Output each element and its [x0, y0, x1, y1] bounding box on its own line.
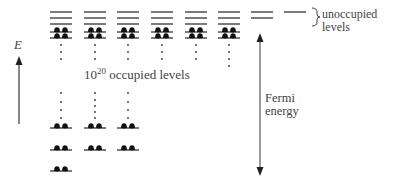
ellipsis-dot [94, 117, 96, 119]
ellipsis-dot [228, 65, 230, 67]
electron-icon [222, 33, 227, 38]
electron-icon [189, 27, 194, 32]
electron-icon [96, 123, 101, 128]
ellipsis-dot [195, 58, 197, 60]
ellipsis-dot [127, 92, 129, 94]
ellipsis-dot [127, 51, 129, 53]
ellipsis-dot [127, 109, 129, 111]
electron-icon [129, 27, 134, 32]
electron-icon [197, 27, 202, 32]
electron-icon [62, 123, 67, 128]
ellipsis-dot [60, 117, 62, 119]
ellipsis-dot [94, 105, 96, 107]
unoccupied-label-line2: levels [322, 21, 377, 34]
ellipsis-dot [161, 58, 163, 60]
energy-axis-arrow-icon [16, 56, 23, 124]
electron-icon [121, 145, 126, 150]
electron-icon [96, 27, 101, 32]
occupied-levels-base: 10 [84, 67, 97, 82]
ellipsis-dot [161, 44, 163, 46]
fermi-energy-label: Fermienergy [265, 92, 299, 118]
ellipsis-dot [94, 92, 96, 94]
electron-icon [230, 27, 235, 32]
occupied-levels-exponent: 20 [97, 66, 106, 76]
electron-icon [54, 145, 59, 150]
ellipsis-dot [127, 44, 129, 46]
electron-icon [129, 33, 134, 38]
ellipsis-dot [228, 51, 230, 53]
ellipsis-dot [228, 44, 230, 46]
electron-icon [230, 33, 235, 38]
ellipsis-dot [94, 44, 96, 46]
occupied-levels-text: occupied levels [106, 67, 190, 82]
energy-axis-label: E [14, 38, 22, 52]
electron-icon [62, 145, 67, 150]
electron-icon [62, 33, 67, 38]
electron-icon [197, 33, 202, 38]
electron-icon [121, 123, 126, 128]
ellipsis-dot [94, 111, 96, 113]
unoccupied-label-line1: unoccupied [322, 8, 377, 21]
electron-icon [88, 27, 93, 32]
electron-icon [222, 27, 227, 32]
electron-icon [129, 123, 134, 128]
electron-icon [96, 33, 101, 38]
ellipsis-dot [60, 109, 62, 111]
ellipsis-dot [161, 51, 163, 53]
ellipsis-dot [228, 58, 230, 60]
ellipsis-dot [127, 101, 129, 103]
ellipsis-dot [60, 51, 62, 53]
ellipsis-dot [195, 44, 197, 46]
occupied-levels-label: 1020 occupied levels [84, 67, 190, 82]
electron-icon [54, 123, 59, 128]
ellipsis-dot [60, 92, 62, 94]
electron-icon [88, 123, 93, 128]
unoccupied-levels-label: unoccupiedlevels [322, 8, 377, 33]
electron-icon [88, 145, 93, 150]
ellipsis-dot [94, 99, 96, 101]
electron-icon [129, 145, 134, 150]
electron-icon [121, 27, 126, 32]
ellipsis-dot [127, 58, 129, 60]
electron-icon [62, 27, 67, 32]
electron-icon [54, 33, 59, 38]
electron-icon [163, 27, 168, 32]
ellipsis-dot [94, 51, 96, 53]
electron-icon [189, 33, 194, 38]
ellipsis-dot [94, 58, 96, 60]
electron-icon [62, 166, 67, 171]
fermi-label-line2: energy [265, 105, 299, 118]
electron-icon [54, 27, 59, 32]
electron-icon [163, 33, 168, 38]
ellipsis-dot [60, 58, 62, 60]
electron-icon [155, 27, 160, 32]
ellipsis-dot [127, 117, 129, 119]
electron-icon [96, 145, 101, 150]
electron-icon [88, 33, 93, 38]
ellipsis-dot [60, 44, 62, 46]
ellipsis-dot [60, 101, 62, 103]
ellipsis-dot [195, 51, 197, 53]
fermi-energy-arrow-icon [257, 33, 264, 176]
electron-icon [121, 33, 126, 38]
brace-icon [312, 8, 320, 26]
electron-icon [155, 33, 160, 38]
electron-icon [54, 166, 59, 171]
